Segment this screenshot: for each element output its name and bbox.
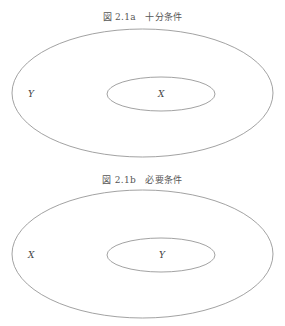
outer-set-label: X (27, 250, 35, 260)
inner-set-label: Y (159, 250, 166, 260)
diagram-canvas: Y X X Y (0, 0, 285, 326)
outer-set-ellipse (12, 29, 273, 157)
outer-set-label: Y (28, 89, 35, 99)
outer-set-ellipse (12, 190, 273, 318)
inner-set-label: X (157, 89, 165, 99)
figure-a-diagram: Y X (12, 29, 273, 157)
figure-b-diagram: X Y (12, 190, 273, 318)
